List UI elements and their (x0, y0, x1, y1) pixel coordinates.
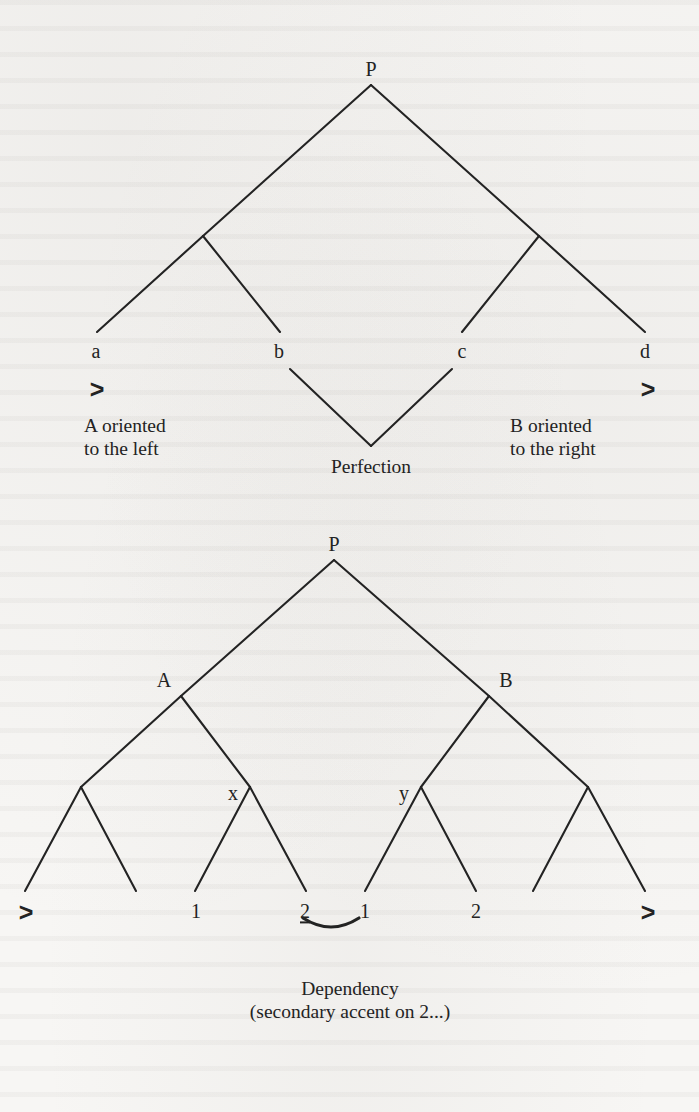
tree-one-branches (97, 85, 645, 446)
tree-one-left-caption: A oriented to the left (84, 415, 166, 460)
tree-two-edge-leaf-4 (250, 787, 306, 891)
tree-two-edge-leaf-7 (533, 787, 588, 891)
tree-one-edge-right-c (462, 236, 539, 332)
tree-one-right-marker: > (641, 375, 656, 404)
tree-one-edge-right-d (539, 236, 645, 332)
tree-two-edge-leaf-8 (588, 787, 645, 891)
tree-two-caption: Dependency (secondary accent on 2...) (250, 978, 450, 1023)
tree-one-leaf-c: c (458, 340, 467, 363)
tree-two-node-B: B (499, 669, 512, 692)
tree-two-edge-leaf-5 (365, 787, 421, 891)
tree-two-node-A: A (157, 669, 171, 692)
tree-one-edge-left-b (203, 236, 280, 332)
dependency-slur-arc (303, 918, 359, 927)
tree-one-edge-left-a (97, 236, 203, 332)
tree-two-leaf-3: 1 (360, 900, 370, 923)
tree-one-root-label: P (365, 58, 376, 81)
tree-two-edge-leaf-1 (25, 787, 81, 891)
tree-one-leaf-d: d (640, 340, 650, 363)
tree-two-leaf-2-accented: 2 (300, 900, 310, 923)
figure-page: P a b c d > > A oriented to the left B o… (0, 0, 699, 1112)
tree-two-edge-A-left (81, 696, 181, 787)
tree-one-right-caption-line2: to the right (510, 438, 596, 461)
tree-one-vee-right (371, 369, 452, 446)
tree-two-leaf-1: 1 (191, 900, 201, 923)
tree-two-leaf-0: > (19, 898, 34, 927)
tree-two-edge-leaf-3 (195, 787, 250, 891)
tree-two-edge-leaf-6 (421, 787, 476, 891)
tree-one-right-caption-line1: B oriented (510, 415, 596, 438)
tree-one-edge-root-right (371, 85, 539, 236)
tree-two-edge-leaf-2 (81, 787, 136, 891)
tree-one-right-caption: B oriented to the right (510, 415, 596, 460)
tree-two-node-x: x (228, 782, 238, 805)
tree-one-center-caption: Perfection (331, 456, 411, 479)
tree-one-leaf-b: b (274, 340, 284, 363)
tree-two-leaf-5: > (641, 898, 656, 927)
tree-two-edge-root-B (334, 560, 489, 696)
tree-two-leaf-4: 2 (471, 900, 481, 923)
tree-one-left-caption-line1: A oriented (84, 415, 166, 438)
tree-two-node-y: y (399, 782, 409, 805)
tree-one-edge-root-left (203, 85, 371, 236)
tree-two-root-label: P (328, 533, 339, 556)
tree-lines-layer (0, 0, 699, 1112)
tree-one-leaf-a: a (92, 340, 101, 363)
tree-two-edge-B-right (489, 696, 588, 787)
tree-one-left-caption-line2: to the left (84, 438, 166, 461)
tree-two-edge-root-A (181, 560, 334, 696)
tree-two-caption-line2: (secondary accent on 2...) (250, 1001, 450, 1024)
tree-two-branches (25, 560, 645, 891)
tree-two-caption-line1: Dependency (250, 978, 450, 1001)
tree-two-edge-A-right (181, 696, 250, 787)
tree-one-left-marker: > (90, 375, 105, 404)
tree-one-vee-left (290, 369, 371, 446)
tree-two-edge-B-left (421, 696, 489, 787)
